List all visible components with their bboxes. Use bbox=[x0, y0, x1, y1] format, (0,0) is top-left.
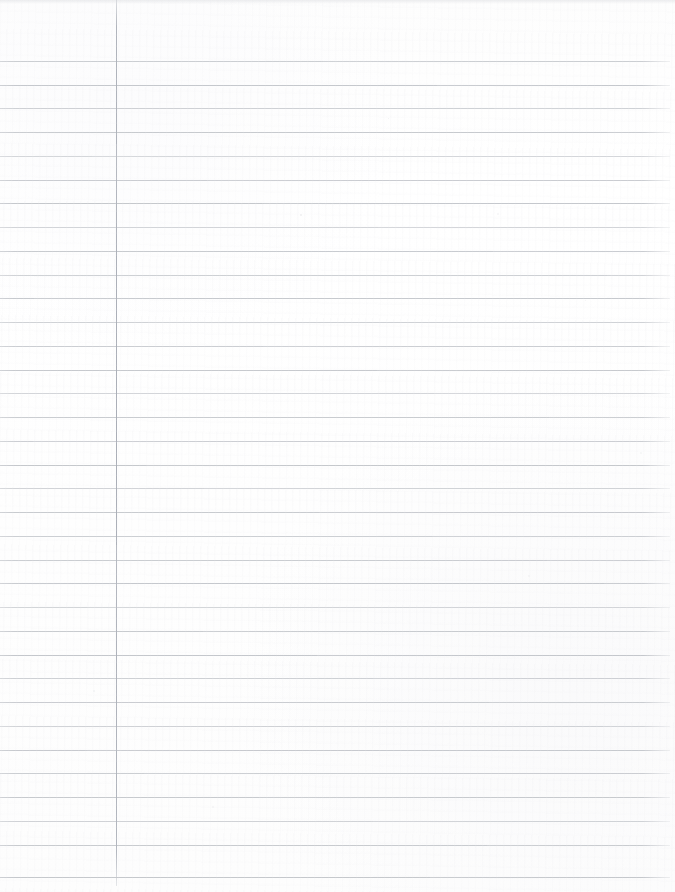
ruled-line bbox=[0, 180, 670, 181]
ruled-line bbox=[0, 346, 670, 347]
ruled-line bbox=[0, 298, 670, 299]
ruled-line bbox=[0, 797, 670, 798]
ruled-line bbox=[0, 678, 670, 679]
ruled-line bbox=[0, 536, 670, 537]
ruled-line bbox=[0, 821, 670, 822]
ruled-line bbox=[0, 465, 670, 466]
ruled-line bbox=[0, 156, 670, 157]
ruled-lines-group bbox=[0, 0, 675, 892]
ruled-line bbox=[0, 203, 670, 204]
vertical-margin-line bbox=[116, 0, 117, 886]
ruled-line bbox=[0, 560, 670, 561]
ruled-line bbox=[0, 370, 670, 371]
ruled-line bbox=[0, 108, 670, 109]
ruled-line bbox=[0, 85, 670, 86]
ruled-line bbox=[0, 655, 670, 656]
ruled-line bbox=[0, 702, 670, 703]
ruled-line bbox=[0, 773, 670, 774]
ruled-line bbox=[0, 877, 670, 878]
ruled-line bbox=[0, 132, 670, 133]
ruled-line bbox=[0, 631, 670, 632]
ruled-line bbox=[0, 441, 670, 442]
ruled-line bbox=[0, 393, 670, 394]
ruled-line bbox=[0, 750, 670, 751]
ruled-line bbox=[0, 607, 670, 608]
ruled-line bbox=[0, 726, 670, 727]
ruled-line bbox=[0, 417, 670, 418]
ruled-line bbox=[0, 845, 670, 846]
ruled-line bbox=[0, 61, 670, 62]
notebook-page bbox=[0, 0, 675, 892]
ruled-line bbox=[0, 488, 670, 489]
ruled-line bbox=[0, 251, 670, 252]
ruled-line bbox=[0, 512, 670, 513]
ruled-line bbox=[0, 275, 670, 276]
ruled-line bbox=[0, 227, 670, 228]
ruled-line bbox=[0, 583, 670, 584]
ruled-line bbox=[0, 322, 670, 323]
